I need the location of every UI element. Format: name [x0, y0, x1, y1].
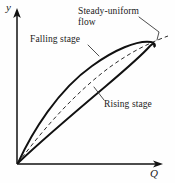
stage-discharge-loop-figure: y Q Steady-uniform flow Falling stage Ri…	[0, 0, 175, 183]
steady-uniform-flow-label-line1: Steady-uniform	[78, 6, 139, 17]
steady-uniform-flow-label: Steady-uniform flow	[78, 6, 139, 28]
falling-stage-leader	[88, 45, 99, 56]
falling-stage-label: Falling stage	[30, 34, 80, 45]
axes-group	[13, 8, 163, 168]
steady-uniform-flow-leader	[139, 17, 159, 40]
leader-lines-group	[88, 17, 159, 100]
x-axis-label: Q	[150, 168, 158, 179]
steady-uniform-flow-label-line2: flow	[78, 17, 139, 28]
y-axis-label: y	[6, 2, 11, 13]
rising-stage-label: Rising stage	[104, 99, 152, 110]
